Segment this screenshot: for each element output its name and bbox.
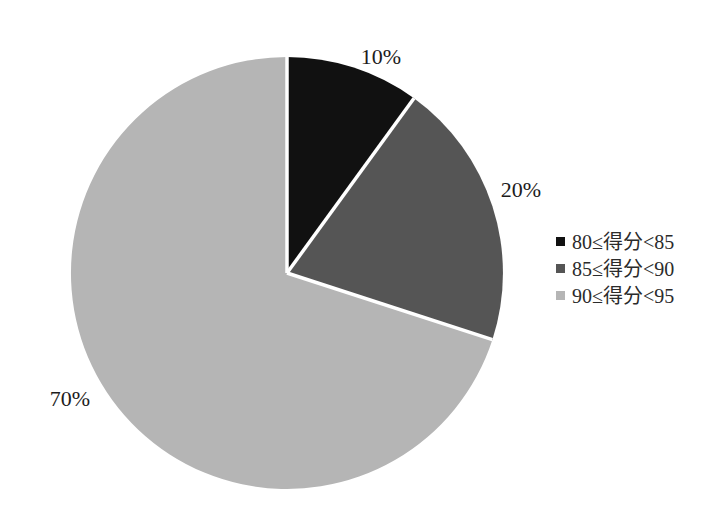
legend-swatch-lightgray-icon: [556, 291, 565, 300]
legend-item-90-95: 90≤得分<95: [556, 284, 674, 307]
legend-label-85-90: 85≤得分<90: [572, 259, 674, 279]
legend-label-80-85: 80≤得分<85: [572, 232, 674, 252]
legend-item-80-85: 80≤得分<85: [556, 230, 674, 253]
pie-legend: 80≤得分<85 85≤得分<90 90≤得分<95: [556, 230, 674, 307]
slice-label-20pct: 20%: [501, 177, 541, 202]
slice-label-70pct: 70%: [50, 386, 90, 411]
legend-item-85-90: 85≤得分<90: [556, 257, 674, 280]
slice-label-10pct: 10%: [361, 44, 401, 69]
legend-label-90-95: 90≤得分<95: [572, 286, 674, 306]
legend-swatch-darkgray-icon: [556, 264, 565, 273]
legend-swatch-black-icon: [556, 237, 565, 246]
pie-chart-figure: 10% 20% 70% 80≤得分<85 85≤得分<90 90≤得分<95: [0, 0, 726, 527]
